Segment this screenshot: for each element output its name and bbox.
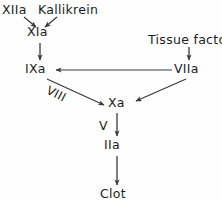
node-clot: Clot bbox=[100, 188, 126, 201]
node-tissue-factor: Tissue factor bbox=[148, 34, 222, 47]
node-ixa: IXa bbox=[25, 63, 46, 76]
node-xia: XIa bbox=[27, 26, 48, 39]
node-xiia: XIIa bbox=[2, 4, 27, 17]
coagulation-cascade-diagram: XIIa Kallikrein XIa IXa Tissue factor VI… bbox=[0, 0, 222, 201]
node-viia: VIIa bbox=[174, 63, 199, 76]
edge-viia-to-xa bbox=[136, 79, 186, 101]
node-xa: Xa bbox=[108, 97, 125, 110]
node-kallikrein: Kallikrein bbox=[38, 4, 98, 17]
edge-label-v: V bbox=[99, 120, 108, 133]
node-iia: IIa bbox=[104, 139, 120, 152]
